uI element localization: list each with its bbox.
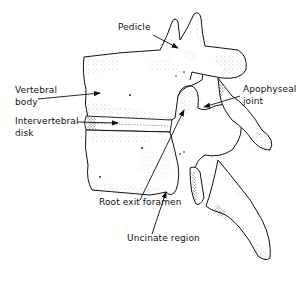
label-root-exit-foramen: Root exit foramen	[99, 197, 181, 208]
lower-vertebral-body	[85, 130, 178, 195]
label-uncinate-region: Uncinate region	[127, 233, 200, 244]
label-vertebral-body-line1: Vertebral	[15, 85, 57, 96]
label-intervertebral-disk-line2: disk	[15, 128, 34, 139]
label-vertebral-body-line2: body	[15, 97, 38, 108]
label-pedicle: Pedicle	[118, 22, 151, 33]
label-apophyseal-joint-line1: Apophyseal	[243, 84, 296, 95]
label-apophyseal-joint-line2: joint	[243, 96, 263, 107]
vertebra-diagram: Pedicle Vertebral body Intervertebral di…	[0, 0, 305, 281]
label-intervertebral-disk-line1: Intervertebral	[15, 116, 79, 127]
